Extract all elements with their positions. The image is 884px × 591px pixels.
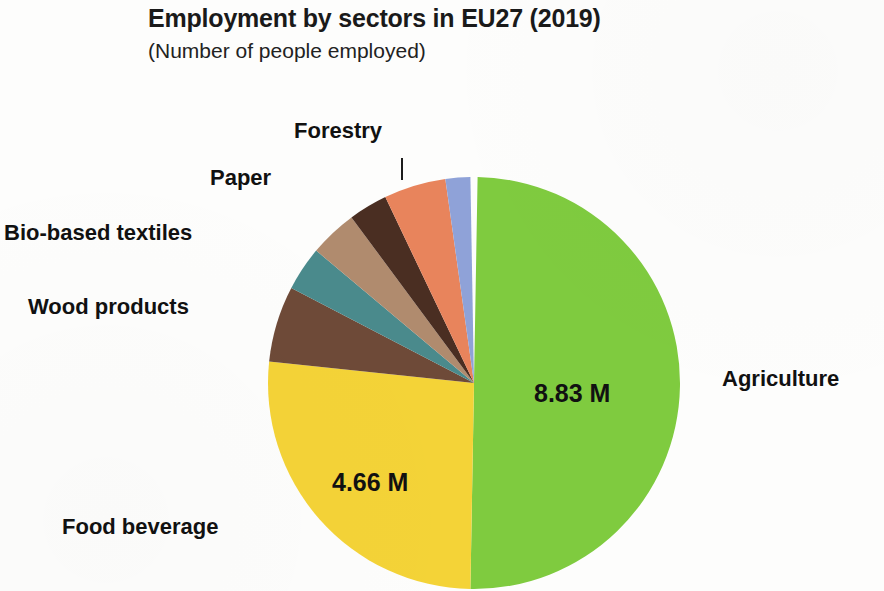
forestry-leader-line [401, 158, 403, 180]
slice-label-bio-based-textiles: Bio-based textiles [4, 222, 192, 244]
slice-label-agriculture: Agriculture [722, 368, 839, 390]
pie-slice-group [268, 177, 680, 589]
slice-label-wood-products: Wood products [28, 296, 189, 318]
slice-label-paper: Paper [210, 167, 271, 189]
slice-value-food-beverage: 4.66 M [332, 470, 408, 495]
pie-chart-figure: Employment by sectors in EU27 (2019) (Nu… [0, 0, 884, 591]
slice-label-forestry: Forestry [294, 120, 382, 142]
slice-value-agriculture: 8.83 M [534, 381, 610, 406]
slice-label-food-beverage: Food beverage [62, 516, 218, 538]
